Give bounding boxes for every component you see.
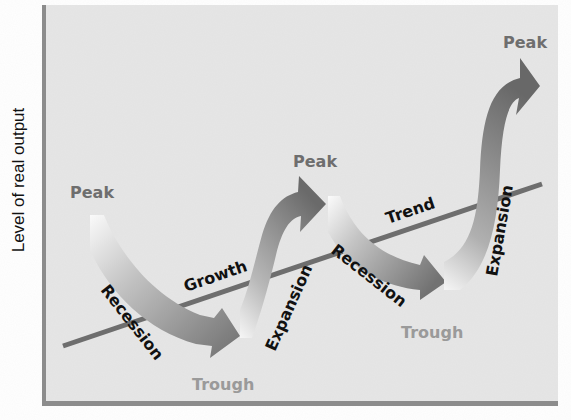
trough-label-2: Trough (401, 323, 463, 342)
diagram-canvas: Peak Peak Peak Trough Trough Recession E… (0, 0, 571, 420)
y-axis-label-container: Level of real output (4, 0, 34, 420)
peak-label-3: Peak (503, 33, 547, 52)
y-axis-label: Level of real output (9, 108, 29, 253)
peak-label-2: Peak (293, 152, 337, 171)
x-axis (42, 401, 558, 406)
peak-label-1: Peak (70, 183, 114, 202)
y-axis (42, 5, 46, 405)
trough-label-1: Trough (192, 375, 254, 394)
business-cycle-diagram: Level of real output (0, 0, 571, 420)
